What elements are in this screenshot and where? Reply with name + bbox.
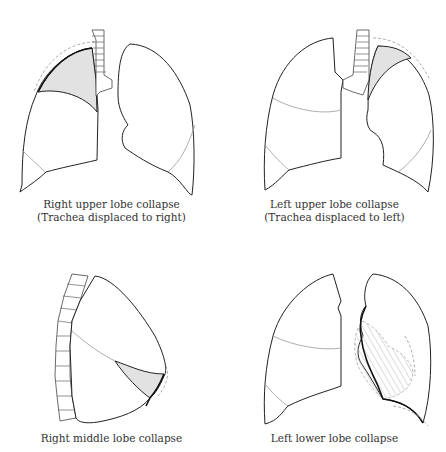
lung-diagram-left-lower-lobe: [223, 226, 446, 452]
caption-title: Right middle lobe collapse: [0, 432, 223, 445]
caption: Left lower lobe collapse: [223, 432, 446, 445]
caption-title: Left upper lobe collapse: [223, 198, 446, 211]
lung-diagram-right-upper-lobe: [0, 0, 223, 226]
caption-title: Right upper lobe collapse: [0, 198, 223, 211]
caption: Left upper lobe collapse (Trachea displa…: [223, 198, 446, 223]
panel-left-upper-lobe-collapse: Left upper lobe collapse (Trachea displa…: [223, 0, 446, 226]
panel-right-middle-lobe-collapse: Right middle lobe collapse: [0, 226, 223, 452]
caption: Right upper lobe collapse (Trachea displ…: [0, 198, 223, 223]
panel-right-upper-lobe-collapse: Right upper lobe collapse (Trachea displ…: [0, 0, 223, 226]
lung-diagram-right-middle-lobe: [0, 226, 223, 452]
caption-note: (Trachea displaced to right): [0, 211, 223, 224]
lung-diagram-left-upper-lobe: [223, 0, 446, 226]
panel-left-lower-lobe-collapse: Left lower lobe collapse: [223, 226, 446, 452]
caption-note: (Trachea displaced to left): [223, 211, 446, 224]
caption-title: Left lower lobe collapse: [223, 432, 446, 445]
caption: Right middle lobe collapse: [0, 432, 223, 445]
